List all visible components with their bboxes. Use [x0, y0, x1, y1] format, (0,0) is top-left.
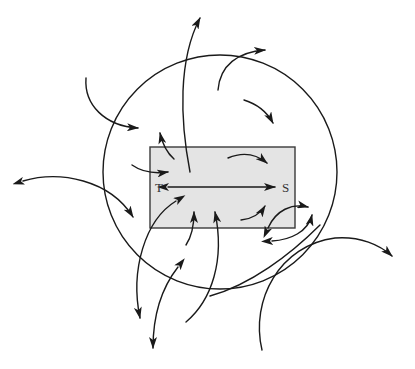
label-t: T	[155, 180, 163, 195]
label-s: S	[282, 180, 289, 195]
diagram-canvas: T S	[0, 0, 415, 369]
arrow-upper-right-internal	[244, 100, 273, 123]
arc-lower-right-crossing	[210, 225, 320, 296]
double-arrow-left	[23, 177, 133, 217]
arrow-lower-right-exit	[259, 238, 392, 350]
arrow-upper-left-inward	[86, 78, 138, 128]
arrow-upper-right-exit	[218, 50, 265, 90]
